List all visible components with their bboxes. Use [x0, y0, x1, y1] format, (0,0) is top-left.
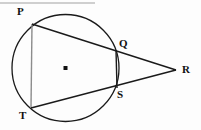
vertex-label-t: T [19, 110, 26, 121]
vertex-label-q: Q [119, 38, 128, 49]
geometry-canvas [0, 0, 201, 130]
chord-p-t [31, 24, 32, 108]
vertex-label-r: R [182, 64, 190, 75]
center-dot [64, 66, 68, 70]
chord-q-s [116, 50, 117, 88]
vertex-label-s: S [117, 89, 123, 100]
geometry-figure: P Q R S T [0, 0, 201, 130]
vertex-label-p: P [17, 6, 24, 17]
secant-t-s-r [31, 70, 176, 108]
